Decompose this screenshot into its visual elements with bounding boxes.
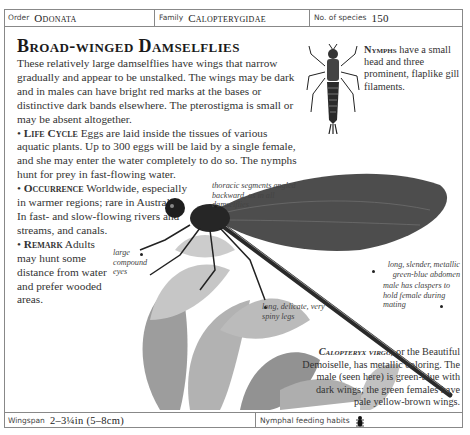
predator-beetle-icon (355, 415, 365, 427)
caption-eyes-pointer (140, 253, 143, 256)
nymph-heading: Nymphs (364, 44, 397, 55)
caption-abdomen: long, slender, metallic green-blue abdom… (368, 260, 460, 279)
caption-claspers: male has claspers to hold female during … (383, 281, 458, 310)
feeding-label: Nymphal feeding habits (260, 416, 350, 425)
species-count-label: No. of species (314, 13, 366, 22)
nymph-illustration (303, 42, 363, 134)
species-count-cell: No. of species 150 (310, 9, 463, 26)
feeding-cell: Nymphal feeding habits (256, 413, 463, 428)
caption-legs-pointer (264, 306, 267, 309)
species-note: Calopteryx virgo, or the Beautiful Demoi… (300, 346, 460, 409)
wingspan-value: 2–3¼in (5–8cm) (50, 415, 124, 426)
intro-paragraph: These relatively large damselflies have … (17, 57, 300, 127)
wingspan-label: Wingspan (8, 416, 45, 425)
wingspan-cell: Wingspan 2–3¼in (5–8cm) (4, 413, 256, 428)
family-label: Family (159, 13, 183, 22)
species-name: Calopteryx virgo, (319, 346, 394, 357)
caption-eyes: large compound eyes (113, 248, 153, 277)
caption-legs: long, delicate, very spiny legs (262, 302, 332, 321)
order-value: Odonata (34, 12, 76, 24)
family-cell: Family Calopterygidae (155, 9, 310, 26)
footer-bar: Wingspan 2–3¼in (5–8cm) Nymphal feeding … (4, 412, 463, 428)
section-remark: • Remark Adults may hunt some distance f… (17, 238, 117, 308)
caption-abdomen-pointer (372, 270, 375, 273)
nymph-note: Nymphs have a small head and three promi… (364, 44, 460, 93)
species-count-value: 150 (371, 12, 388, 24)
page-title: Broad-winged Damselflies (17, 36, 240, 57)
caption-thoracic-pointer (214, 205, 217, 208)
caption-thoracic: thoracic segments angled backward, as in… (212, 181, 302, 210)
order-label: Order (8, 13, 29, 22)
family-value: Calopterygidae (188, 12, 266, 24)
caption-claspers-pointer (440, 305, 443, 308)
header-bar: Order Odonata Family Calopterygidae No. … (4, 9, 463, 27)
order-cell: Order Odonata (4, 9, 155, 26)
